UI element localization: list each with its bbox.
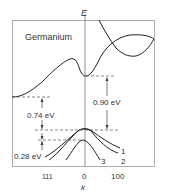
gap-028-arrowhead [41, 136, 44, 140]
energy-axis-label: E [81, 9, 87, 18]
split-off-gap-label: 0.28 eV [14, 153, 42, 161]
material-title: Germanium [25, 33, 72, 42]
direct-gap-label: 0.90 eV [93, 99, 121, 107]
conduction-band-lower [12, 35, 154, 97]
gap-028-arrowhead-lower [41, 141, 44, 145]
gap-090-arrowhead-top [106, 77, 109, 81]
valence-band-2 [49, 129, 118, 160]
x-tick-111: 111 [42, 173, 53, 180]
band-structure-plot [0, 0, 181, 195]
valence-band-1 [45, 129, 120, 157]
valence-band-3 [66, 140, 100, 160]
plot-frame [13, 21, 155, 167]
valence-band-1-label: 1 [121, 148, 125, 156]
valence-band-3-label: 3 [101, 158, 105, 166]
valence-band-2-label: 2 [121, 158, 125, 166]
x-tick-100: 100 [111, 173, 124, 181]
gap-074-arrowhead-bottom [41, 125, 44, 129]
x-tick-0: 0 [82, 173, 86, 181]
gap-074-arrowhead-top [41, 98, 44, 102]
wavevector-axis-label: k [81, 184, 85, 192]
band-structure-diagram: Germanium E k 0.74 eV 0.90 eV 0.28 eV 11… [0, 0, 181, 195]
conduction-band-upper [99, 20, 154, 56]
indirect-gap-label: 0.74 eV [27, 112, 55, 120]
gap-090-arrowhead-bottom [106, 125, 109, 129]
